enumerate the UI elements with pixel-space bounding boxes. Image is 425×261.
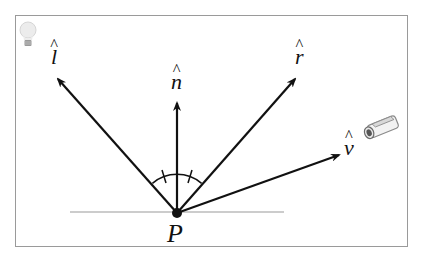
camera-icon xyxy=(362,115,399,140)
diagram-canvas xyxy=(0,0,425,261)
light-vector xyxy=(58,79,177,213)
point-p-dot xyxy=(172,208,182,218)
point-label: P xyxy=(167,221,183,247)
view-label: v xyxy=(344,137,354,159)
light-label: l xyxy=(51,46,57,68)
reflection-label: r xyxy=(295,46,304,68)
lightbulb-icon xyxy=(20,22,36,46)
normal-label: n xyxy=(171,71,182,93)
